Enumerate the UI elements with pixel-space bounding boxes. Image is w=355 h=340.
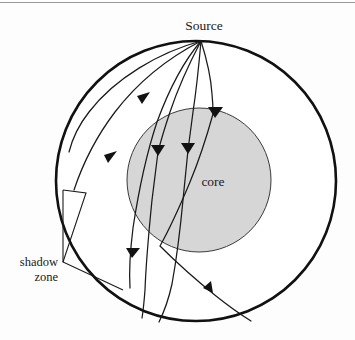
shadow-zone-label-line1: shadow — [20, 255, 58, 269]
shadow-zone-label-line2: zone — [34, 270, 58, 284]
core-label: core — [201, 174, 224, 189]
source-label: Source — [185, 18, 223, 33]
seismic-shadow-zone-figure: Source core shadow zone — [0, 0, 355, 340]
diagram-canvas: Source core shadow zone — [0, 0, 355, 340]
